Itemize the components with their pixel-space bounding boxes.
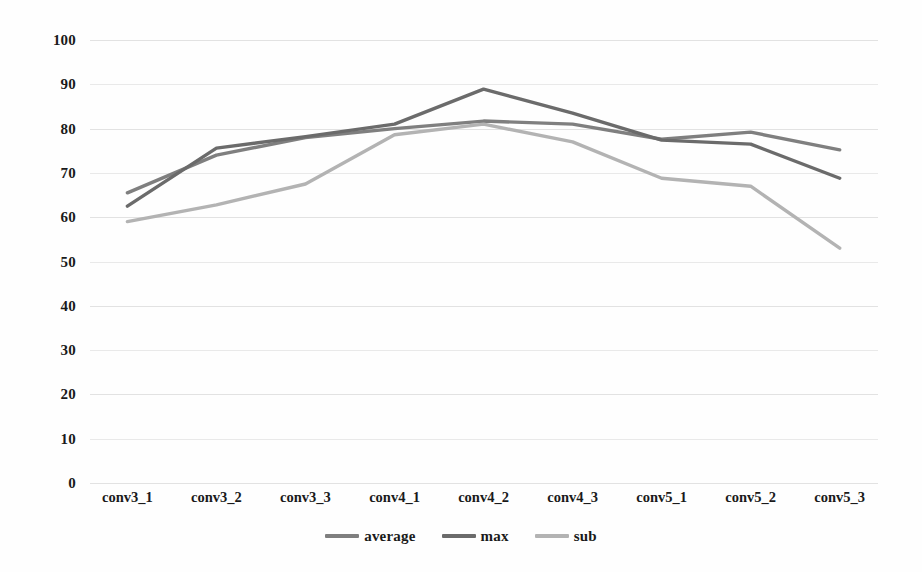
legend-label: max [481, 528, 509, 545]
y-tick-label: 100 [53, 32, 76, 49]
legend-label: average [364, 528, 415, 545]
y-tick-label: 90 [61, 76, 76, 93]
plot-area [90, 40, 878, 483]
series-line-max [127, 89, 839, 206]
y-tick-label: 70 [61, 164, 76, 181]
x-tick-label: conv4_1 [369, 489, 420, 506]
line-chart: 0102030405060708090100 conv3_1conv3_2con… [0, 0, 922, 572]
chart-legend: averagemaxsub [0, 521, 922, 551]
x-axis: conv3_1conv3_2conv3_3conv4_1conv4_2conv4… [90, 489, 878, 515]
y-axis: 0102030405060708090100 [0, 0, 90, 572]
x-tick-label: conv5_2 [725, 489, 776, 506]
x-tick-label: conv3_1 [102, 489, 153, 506]
x-tick-label: conv5_3 [814, 489, 865, 506]
series-layer [90, 40, 878, 483]
x-tick-label: conv3_3 [280, 489, 331, 506]
x-tick-label: conv4_2 [458, 489, 509, 506]
x-tick-label: conv3_2 [191, 489, 242, 506]
y-tick-label: 10 [61, 430, 76, 447]
legend-item-average[interactable]: average [325, 528, 415, 545]
legend-swatch-icon [535, 534, 569, 538]
x-tick-label: conv5_1 [636, 489, 687, 506]
y-tick-label: 20 [61, 386, 76, 403]
gridline-0 [90, 483, 878, 484]
y-tick-label: 60 [61, 209, 76, 226]
y-tick-label: 30 [61, 342, 76, 359]
y-tick-label: 40 [61, 297, 76, 314]
legend-label: sub [574, 528, 597, 545]
legend-swatch-icon [442, 534, 476, 538]
y-tick-label: 50 [61, 253, 76, 270]
legend-swatch-icon [325, 534, 359, 538]
y-tick-label: 80 [61, 120, 76, 137]
legend-item-max[interactable]: max [442, 528, 509, 545]
legend-item-sub[interactable]: sub [535, 528, 597, 545]
y-tick-label: 0 [68, 475, 76, 492]
x-tick-label: conv4_3 [547, 489, 598, 506]
series-line-average [127, 121, 839, 193]
